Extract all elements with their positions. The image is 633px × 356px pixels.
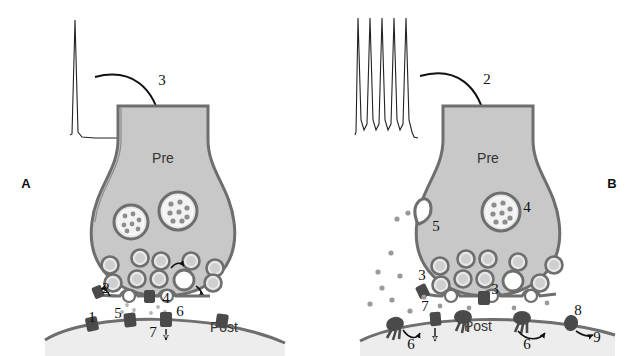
callout-7: 7 <box>149 324 157 340</box>
callout-3-b1: 3 <box>418 267 426 283</box>
callout-5: 5 <box>114 305 122 321</box>
callout-6: 6 <box>176 303 184 319</box>
figure-canvas: 3 Pre <box>0 0 633 356</box>
callout-8-b: 8 <box>574 302 582 318</box>
callout-9-b: 9 <box>593 329 601 345</box>
synapse-diagram: 3 Pre <box>0 0 633 356</box>
dense-core-vesicle-b <box>482 193 520 231</box>
callout-3-b2: 3 <box>491 281 499 297</box>
callout-5-b: 5 <box>432 218 440 234</box>
postsynaptic-channel <box>160 312 172 327</box>
callout-4-b: 4 <box>523 199 531 215</box>
panel-a: 3 Pre <box>21 20 285 356</box>
callout-2: 2 <box>102 280 110 296</box>
fusing-vesicle-b <box>503 271 523 291</box>
metabotropic-receptor <box>454 310 472 324</box>
callout-6-b1: 6 <box>407 336 415 352</box>
callout-3: 3 <box>158 72 166 88</box>
stimulus-trace-single-spike <box>70 20 118 138</box>
fusing-vesicle <box>174 270 194 290</box>
panel-letter-b: B <box>607 176 616 191</box>
callout-1: 1 <box>88 309 96 325</box>
panel-b: 2 Pre <box>355 18 617 356</box>
postsynaptic-channel <box>215 313 229 329</box>
dense-core-vesicle <box>159 192 197 230</box>
presynaptic-channel-4 <box>144 290 155 303</box>
stimulus-trace-spike-train <box>355 18 418 138</box>
callout-2-b: 2 <box>483 71 491 87</box>
postsynaptic-channel <box>429 312 441 327</box>
metabotropic-receptor <box>513 311 531 325</box>
postsynaptic-channel <box>123 312 136 327</box>
callout-4: 4 <box>162 290 170 306</box>
dense-core-vesicle <box>114 205 148 239</box>
callout-6-b2: 6 <box>523 336 531 352</box>
presynaptic-label-b: Pre <box>477 150 499 166</box>
panel-letter-a: A <box>21 176 31 191</box>
presynaptic-label: Pre <box>152 150 174 166</box>
callout-7-b: 7 <box>421 298 429 314</box>
